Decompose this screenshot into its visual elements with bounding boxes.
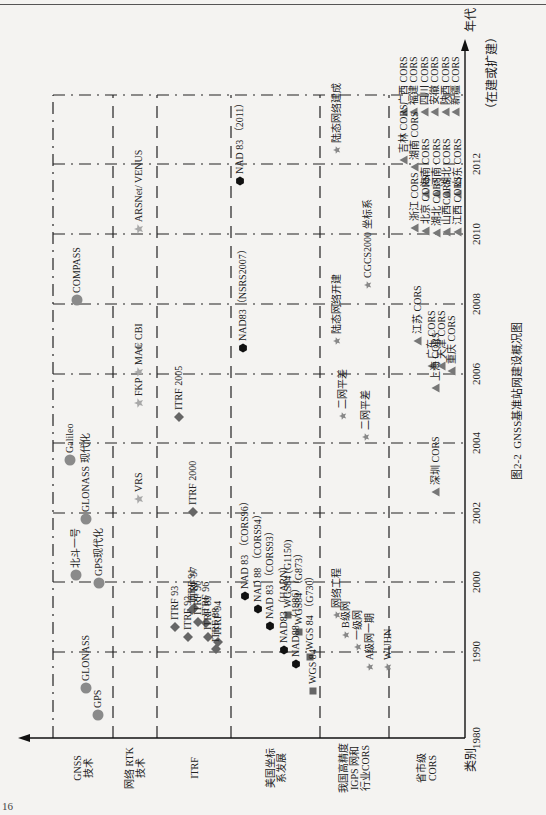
cors-item-label: 湖南 CORS [409,111,420,160]
triangle-icon [432,384,440,393]
gnss-item-label: Galileo [64,424,75,453]
gnss-item-label: GPS现代化 [93,528,104,576]
star-icon [339,412,346,420]
year-tick-label: 2012 [470,153,482,175]
star-icon [134,494,143,504]
triangle-icon [431,108,439,117]
star-icon [342,631,349,639]
triangle-icon [411,163,419,172]
category-label-gnss: GNSS 技术 [72,741,94,795]
nad-item-label: WGS84 （G873） [293,548,304,625]
gnss-item-label: COMPASS [71,247,82,293]
gnss-circle-icon [94,578,105,589]
figure-title: GNSS基准站网建设概况图 [511,322,523,449]
igps-item-label: B级网 [340,601,351,628]
future-label: （在建或扩建） [487,31,498,115]
x-axis-arrow-icon [461,39,469,51]
igps-item-label: 一级网 [352,610,363,640]
star-icon [362,433,369,441]
cors-item-label: 山东 CORS [452,138,463,187]
gnss-circle-icon [71,570,82,581]
x-axis-label: 年代 [466,8,477,32]
diamond-icon [188,507,198,517]
category-label-nad: 美国坐标 系发展 [265,741,287,795]
cors-item-label: 河南 CORS [431,138,442,187]
gnss-circle-icon [93,710,104,721]
hexagon-icon [239,344,247,353]
rtk-item-label: CBI [133,323,144,340]
year-tick-label: 1990 [470,641,482,663]
star-icon [134,398,143,408]
gnss-item-label: GLONASS 现代化 [80,433,91,512]
cors-item-label: 新疆 CORS [450,56,461,105]
rtk-item-label: VRS [133,473,144,492]
cors-item-label: 海南 CORS [420,138,431,187]
nad-item-label: NAD 83 （CORS96） [239,496,250,589]
igps-item-label: A级网一期 [364,613,375,660]
star-icon [333,337,340,345]
year-tick-label: 2010 [470,223,482,245]
year-tick-label: 2004 [470,432,482,454]
hexagon-icon [236,177,244,186]
triangle-icon [452,108,460,117]
star-icon [134,367,143,377]
igps-item-label: WUHN [382,629,393,660]
category-label-itrf: ITRF [189,741,200,795]
gnss-circle-icon [72,295,83,306]
nad-item-label: NAD 88 （CORS94） [252,509,263,602]
cors-item-label: 深圳 CORS [430,436,441,485]
gnss-circle-icon [81,514,92,525]
cors-item-label: 广东 CORS [426,310,437,359]
gnss-circle-icon [65,455,76,466]
diamond-icon [174,412,184,422]
triangle-icon [442,108,450,117]
cors-item-label: 天津 CORS [436,310,447,359]
hexagon-icon [280,646,288,655]
figure-number: 图2-2 [511,454,523,480]
itrf-item-label: ITRF 93 [169,586,180,620]
igps-item-label: 二网平差 [337,369,348,409]
diamond-icon [183,632,193,642]
star-icon [364,281,371,289]
year-tick-label: 1980 [470,727,482,749]
gnss-development-diagram: 198019902000200220042006200820102012GNSS… [0,0,546,815]
triangle-icon [414,337,422,346]
triangle-icon [433,229,441,238]
itrf-item-label: ITRF 2005 [173,366,184,410]
page-number: 16 [2,800,13,812]
star-icon [333,146,340,154]
category-label-rtk: 网络 RTK 技术 [124,741,146,795]
star-icon [354,643,361,651]
hexagon-icon [266,622,274,631]
igps-item-label: 陆态网络开建 [331,274,342,334]
year-tick-label: 2008 [470,293,482,315]
rtk-item-label: FKP [133,378,144,396]
category-label-igps: 我国高精度 IGPS 网和 行业CORS [338,741,371,795]
figure-caption: 图2-2 GNSS基准站网建设概况图 [508,322,524,480]
cors-item-label: 浙江 CORS [409,172,420,221]
nad-item-label: WGS 84 [307,649,318,684]
triangle-icon [454,228,462,237]
cors-item-label: 安徽 CORS [429,56,440,105]
gnss-item-label: GPS [92,690,103,708]
hexagon-icon [241,592,249,601]
cors-item-label: 吉林 CORS [398,104,409,153]
triangle-icon [421,108,429,117]
nad-item-label: NAD 83 （CORS93） [264,526,275,619]
hexagon-icon [292,660,300,669]
itrf-item-label: ITRF 97 [188,567,199,601]
cors-item-label: 福建 CORS [408,56,419,105]
cors-item-label: 江苏 CORS [412,285,423,334]
hexagon-icon [254,605,262,614]
year-tick-label: 2002 [470,502,482,524]
triangle-icon [432,488,440,497]
gnss-item-label: GLONASS [80,635,91,681]
rtk-item-label: MAC [133,342,144,365]
igps-item-label: 二网平差 [360,390,371,430]
year-tick-label: 2000 [470,571,482,593]
igps-item-label: CGCS2000 坐标系 [362,199,373,278]
itrf-item-label: ITRF 2000 [187,461,198,505]
y-axis-label: 类别 [466,748,477,772]
square-icon [310,688,317,695]
cors-item-label: 湖北 CORS [441,138,452,187]
